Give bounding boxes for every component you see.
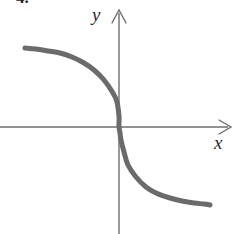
graph-figure: 4. y x (0, 0, 240, 234)
x-axis (0, 120, 231, 134)
y-axis-label: y (92, 5, 100, 24)
x-axis-label: x (214, 133, 222, 152)
plot-area (0, 0, 240, 234)
